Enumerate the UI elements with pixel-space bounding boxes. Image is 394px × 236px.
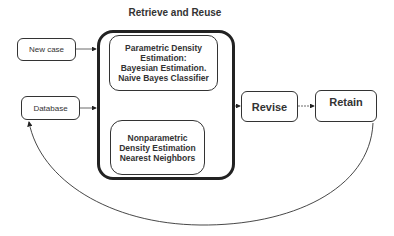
new-case-label: New case xyxy=(29,45,64,54)
parametric-line-4: Naive Bayes Classifier xyxy=(118,73,209,83)
nonparametric-line-1: Nonparametric xyxy=(128,133,188,143)
cbr-diagram: Retrieve and Reuse New case Database Par… xyxy=(0,0,394,236)
nonparametric-line-2: Density Estimation xyxy=(119,143,196,153)
parametric-line-2: Estimation: xyxy=(140,53,186,63)
parametric-line-1: Parametric Density xyxy=(125,43,202,53)
parametric-line-3: Bayesian Estimation. xyxy=(121,63,207,73)
new-case-node: New case xyxy=(17,38,76,61)
revise-label: Revise xyxy=(252,101,287,113)
nonparametric-node: Nonparametric Density Estimation Nearest… xyxy=(110,120,205,175)
database-label: Database xyxy=(33,104,67,113)
revise-node: Revise xyxy=(241,91,298,122)
retrieve-reuse-title: Retrieve and Reuse xyxy=(110,7,240,18)
retain-label: Retain xyxy=(329,96,363,108)
database-node: Database xyxy=(21,96,80,120)
nonparametric-line-3: Nearest Neighbors xyxy=(120,153,196,163)
retain-node: Retain xyxy=(315,90,377,122)
parametric-node: Parametric Density Estimation: Bayesian … xyxy=(109,35,218,91)
